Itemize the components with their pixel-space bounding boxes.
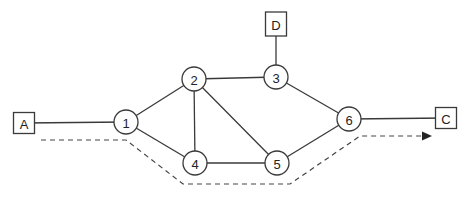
router-node-6: 6 [337,107,361,131]
route-path-a-to-c [41,136,422,184]
nodes: 123456ADC [14,12,457,175]
host-label: D [271,18,280,33]
router-node-5: 5 [265,151,289,175]
link-6-c [349,118,446,119]
router-label: 1 [122,116,129,131]
router-label: 5 [273,157,280,172]
router-label: 2 [190,73,197,88]
host-node-a: A [14,113,35,134]
route-arrowhead-icon [422,132,432,141]
router-label: 4 [191,157,198,172]
router-node-4: 4 [183,151,207,175]
host-node-c: C [436,108,457,129]
link-a-1 [24,122,126,123]
router-label: 6 [345,113,352,128]
host-label: A [20,117,29,132]
host-label: C [441,112,450,127]
router-label: 3 [272,71,279,86]
network-diagram: 123456ADC [0,0,468,198]
host-node-d: D [266,12,287,36]
router-node-2: 2 [182,67,206,91]
link-5-6 [277,119,349,163]
router-node-3: 3 [264,65,288,89]
router-node-1: 1 [114,110,138,134]
links [24,24,446,163]
link-2-5 [194,79,277,163]
